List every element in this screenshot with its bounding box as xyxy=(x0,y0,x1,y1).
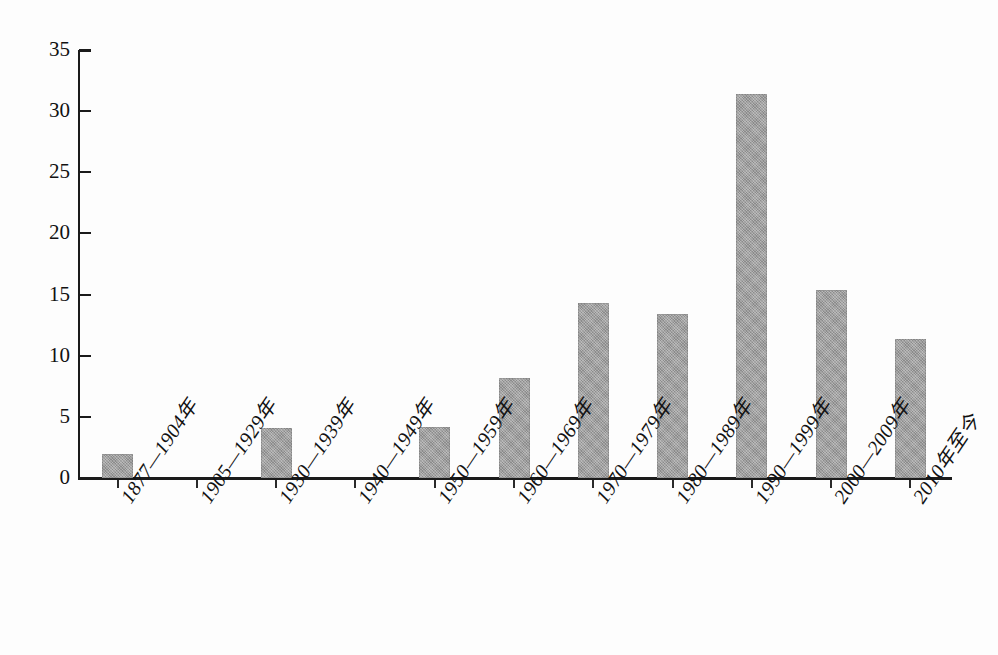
y-axis-tick-label: 30 xyxy=(30,100,70,121)
bar xyxy=(578,303,609,478)
y-axis-tick-label: 0 xyxy=(30,467,70,488)
chart-page: 05101520253035 1877—1904年1905—1929年1930—… xyxy=(0,0,998,655)
y-axis-tick-label: 5 xyxy=(30,406,70,427)
bar xyxy=(816,290,847,478)
y-axis-tick-label: 10 xyxy=(30,345,70,366)
y-axis-tick-label: 20 xyxy=(30,222,70,243)
y-axis-tick-label: 15 xyxy=(30,284,70,305)
y-axis-tick-label: 35 xyxy=(30,39,70,60)
y-axis-tick-label: 25 xyxy=(30,161,70,182)
